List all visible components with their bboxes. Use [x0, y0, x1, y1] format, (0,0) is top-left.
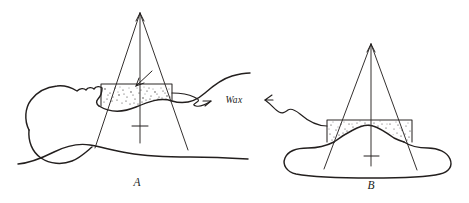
wax-leader-line-left: [172, 93, 211, 106]
panel-b-beam-left-ray: [324, 44, 371, 169]
panel-a-beam-left-ray: [95, 13, 140, 148]
panel-a-beam-right-ray: [140, 13, 188, 150]
panel-b: B: [284, 44, 451, 191]
panel-a: A: [18, 13, 250, 188]
wax-leader-arrowhead-right: [265, 95, 273, 100]
wax-label: Wax: [225, 95, 243, 105]
panel-b-body-outline: [284, 142, 451, 178]
radiography-wax-bolus-diagram: A: [0, 0, 469, 203]
panel-b-surface-contour: [334, 125, 404, 142]
panel-b-beam-right-ray: [371, 44, 417, 170]
wax-annotation-group: Wax: [172, 93, 327, 126]
panel-a-caption: A: [132, 176, 141, 188]
figure-container: A: [0, 0, 469, 203]
panel-a-bolus-stipple: [104, 87, 171, 105]
panel-a-lower-body-contour: [18, 144, 248, 164]
wax-leader-line-right: [265, 100, 327, 126]
panel-a-chest-contour: [99, 73, 250, 111]
panel-a-bolus-box: [101, 84, 172, 106]
panel-b-caption: B: [367, 179, 374, 191]
panel-a-head-outline: [26, 86, 102, 130]
